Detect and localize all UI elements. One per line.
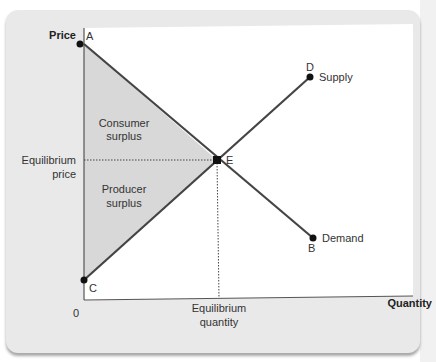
point-d: [307, 74, 314, 81]
consumer-surplus-label-2: surplus: [106, 130, 142, 142]
surplus-chart: A C D B E Supply Demand Consumer surplus…: [0, 0, 436, 362]
y-axis-label: Price: [49, 29, 76, 41]
x-axis-label: Quantity: [387, 297, 432, 309]
supply-label: Supply: [319, 71, 353, 83]
producer-surplus-label-1: Producer: [102, 183, 147, 195]
producer-surplus-label-2: surplus: [106, 197, 142, 209]
equilibrium-quantity-label-1: Equilibrium: [192, 302, 246, 314]
point-c: [81, 277, 88, 284]
point-a-label: A: [86, 30, 94, 42]
point-b: [310, 235, 317, 242]
point-b-label: B: [308, 242, 315, 254]
point-c-label: C: [89, 282, 97, 294]
point-e-label: E: [226, 154, 233, 166]
point-d-label: D: [306, 61, 314, 73]
equilibrium-quantity-label-2: quantity: [200, 316, 239, 328]
point-e: [213, 156, 221, 164]
equilibrium-price-label-2: price: [52, 168, 76, 180]
origin-label: 0: [73, 307, 79, 319]
consumer-surplus-label-1: Consumer: [99, 117, 150, 129]
demand-label: Demand: [322, 232, 364, 244]
equilibrium-price-label-1: Equilibrium: [22, 154, 76, 166]
point-a: [77, 41, 84, 48]
